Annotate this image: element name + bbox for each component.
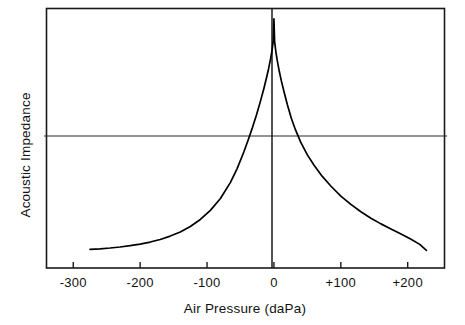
acoustic-impedance-curve [90, 19, 426, 250]
chart-canvas: -300-200-1000+100+200 Air Pressure (daPa… [0, 0, 465, 325]
tympanogram-chart-figure: -300-200-1000+100+200 Air Pressure (daPa… [0, 0, 465, 325]
x-axis-tick-label: +100 [326, 275, 356, 290]
x-axis-tick-label: -100 [193, 275, 220, 290]
x-axis-title: Air Pressure (daPa) [184, 301, 306, 316]
x-axis-tick-label: +200 [392, 275, 422, 290]
x-axis-tick-label: 0 [270, 275, 278, 290]
x-axis-tick-label: -200 [127, 275, 154, 290]
x-axis-tick-label: -300 [60, 275, 87, 290]
y-axis-title: Acoustic Impedance [18, 92, 33, 217]
x-axis-tick-marks [73, 262, 407, 268]
x-axis-tick-labels: -300-200-1000+100+200 [60, 275, 423, 290]
plot-frame-border [47, 9, 445, 269]
